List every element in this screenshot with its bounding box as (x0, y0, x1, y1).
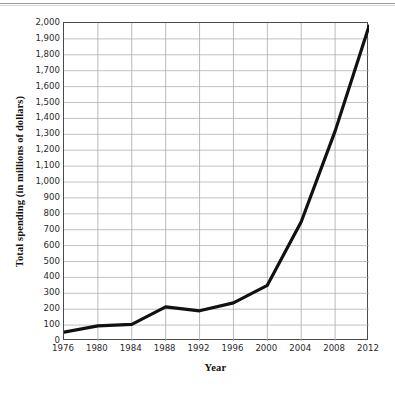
y-tick-label: 500 (24, 256, 60, 265)
plot-canvas (64, 23, 369, 341)
y-tick-label: 1,600 (24, 81, 60, 90)
y-tick-label: 1,400 (24, 113, 60, 122)
y-tick-label: 1,000 (24, 177, 60, 186)
y-tick-label: 1,500 (24, 97, 60, 106)
y-tick-label: 800 (24, 209, 60, 218)
y-tick-label: 300 (24, 288, 60, 297)
x-axis-title: Year (63, 362, 368, 373)
y-tick-label: 2,000 (24, 18, 60, 27)
y-tick-label: 100 (24, 320, 60, 329)
y-tick-label: 600 (24, 240, 60, 249)
line-chart-figure: Total spending (in millions of dollars) … (0, 0, 395, 393)
y-tick-label: 900 (24, 193, 60, 202)
y-tick-label: 400 (24, 272, 60, 281)
y-tick-label: 1,300 (24, 129, 60, 138)
y-tick-label: 200 (24, 304, 60, 313)
y-tick-label: 700 (24, 224, 60, 233)
y-tick-label: 1,700 (24, 65, 60, 74)
x-axis-tick-labels: 1976198019841988199219962000200420082012 (63, 344, 368, 358)
y-tick-label: 1,200 (24, 145, 60, 154)
x-tick-label: 2012 (348, 344, 388, 353)
plot-area (63, 22, 368, 340)
data-series-line (64, 26, 369, 332)
y-tick-label: 1,900 (24, 34, 60, 43)
y-axis-tick-labels: 01002003004005006007008009001,0001,1001,… (24, 22, 60, 340)
horizontal-gridlines (64, 39, 369, 325)
y-tick-label: 1,100 (24, 161, 60, 170)
y-tick-label: 1,800 (24, 50, 60, 59)
